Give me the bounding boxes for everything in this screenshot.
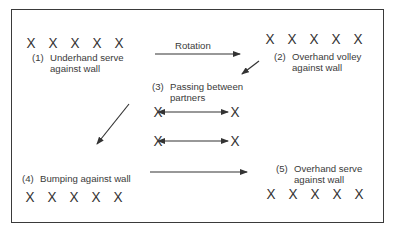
arrow-2-to-3 bbox=[242, 61, 259, 74]
flow-arrows bbox=[0, 0, 396, 235]
arrow-3-to-4 bbox=[97, 104, 129, 144]
rotation-diagram: X X X X X (1)Underhand serve against wal… bbox=[0, 0, 396, 235]
